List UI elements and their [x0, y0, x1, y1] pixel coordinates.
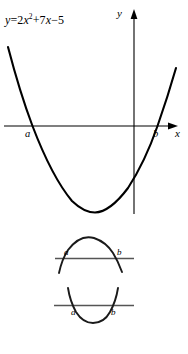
- y-axis-arrowhead: [131, 9, 138, 19]
- main-root-label-b: b: [153, 129, 158, 140]
- main-axes: [4, 9, 178, 214]
- x-axis-label: x: [175, 128, 180, 139]
- quadratic-figure: y=2x2+7x−5 y x a b a b a b: [0, 0, 188, 354]
- sketch-top-root-label-b: b: [117, 248, 122, 257]
- sketch-bottom-root-label-a: a: [71, 308, 76, 317]
- figure-canvas: [0, 0, 188, 354]
- y-axis-label: y: [117, 8, 122, 19]
- sketch-top-root-label-a: a: [64, 248, 69, 257]
- main-parabola-curve: [8, 47, 176, 213]
- sketch-bottom: [54, 288, 134, 323]
- main-root-label-a: a: [25, 129, 30, 140]
- sketch-bottom-root-label-b: b: [111, 308, 116, 317]
